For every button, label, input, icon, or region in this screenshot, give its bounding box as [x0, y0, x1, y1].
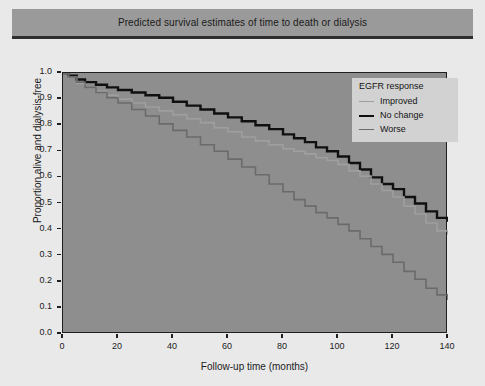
y-tick-mark	[57, 254, 61, 256]
y-tick-mark	[57, 123, 61, 125]
figure-container: Predicted survival estimates of time to …	[0, 0, 485, 386]
x-tick-label: 60	[207, 342, 247, 351]
legend-label: Worse	[380, 125, 406, 134]
legend-entry: Improved	[359, 95, 452, 109]
legend-entry: Worse	[359, 123, 452, 137]
x-tick-mark	[391, 334, 393, 338]
y-tick-mark	[57, 150, 61, 152]
legend-label: Improved	[380, 97, 418, 106]
y-axis-label: Proportion alive and dialysis-free	[32, 26, 43, 276]
legend-entry: No change	[359, 109, 452, 123]
y-tick-mark	[57, 71, 61, 73]
y-tick-mark	[57, 228, 61, 230]
x-tick-mark	[336, 334, 338, 338]
y-tick-label: 0.0	[26, 328, 52, 337]
x-tick-label: 100	[317, 342, 357, 351]
legend-entries: ImprovedNo changeWorse	[359, 95, 452, 137]
y-tick-mark	[57, 306, 61, 308]
page-title: Predicted survival estimates of time to …	[118, 17, 367, 28]
legend-title: EGFR response	[359, 82, 452, 92]
x-tick-label: 120	[372, 342, 412, 351]
x-axis-label: Follow-up time (months)	[62, 361, 447, 372]
legend-label: No change	[380, 111, 424, 120]
legend-line-swatch	[359, 115, 374, 117]
y-tick-label: 0.1	[26, 302, 52, 311]
x-tick-label: 140	[427, 342, 467, 351]
x-tick-mark	[446, 334, 448, 338]
chart-title-banner: Predicted survival estimates of time to …	[12, 9, 473, 39]
legend: EGFR response ImprovedNo changeWorse	[352, 78, 458, 142]
x-tick-label: 0	[42, 342, 82, 351]
x-tick-label: 20	[97, 342, 137, 351]
x-tick-label: 80	[262, 342, 302, 351]
y-tick-mark	[57, 176, 61, 178]
y-tick-mark	[57, 97, 61, 99]
x-tick-mark	[281, 334, 283, 338]
x-tick-mark	[171, 334, 173, 338]
y-tick-mark	[57, 202, 61, 204]
x-tick-mark	[226, 334, 228, 338]
x-tick-mark	[61, 334, 63, 338]
y-tick-label: 0.2	[26, 276, 52, 285]
legend-line-swatch	[359, 101, 374, 102]
x-tick-label: 40	[152, 342, 192, 351]
y-tick-mark	[57, 280, 61, 282]
x-tick-mark	[116, 334, 118, 338]
legend-line-swatch	[359, 129, 374, 130]
